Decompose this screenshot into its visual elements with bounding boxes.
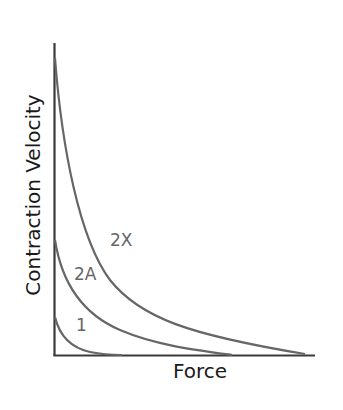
curve-1 <box>55 317 122 355</box>
x-axis-title: Force <box>173 359 227 383</box>
curve-label-2x: 2X <box>110 230 133 250</box>
force-velocity-chart: 2X 2A 1 Force Contraction Velocity <box>0 0 343 410</box>
curve-label-2a: 2A <box>74 264 97 284</box>
curve-2x <box>55 58 305 354</box>
y-axis-title: Contraction Velocity <box>21 94 45 295</box>
curve-label-1: 1 <box>76 315 87 335</box>
curve-2a <box>55 240 232 355</box>
